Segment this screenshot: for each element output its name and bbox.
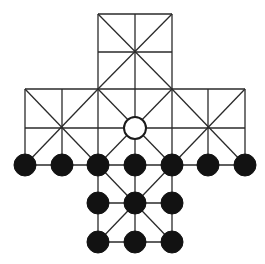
black-piece[interactable]	[87, 192, 109, 214]
game-board	[0, 0, 265, 264]
board-point[interactable]	[237, 81, 253, 97]
board-point[interactable]	[90, 44, 106, 60]
board-point[interactable]	[17, 120, 33, 136]
white-piece[interactable]	[124, 117, 146, 139]
black-piece[interactable]	[161, 231, 183, 253]
black-piece[interactable]	[14, 154, 36, 176]
board-point[interactable]	[90, 81, 106, 97]
black-piece[interactable]	[124, 231, 146, 253]
black-piece[interactable]	[51, 154, 73, 176]
board-point[interactable]	[127, 6, 143, 22]
board-point[interactable]	[127, 81, 143, 97]
board-point[interactable]	[90, 6, 106, 22]
board-point[interactable]	[164, 44, 180, 60]
black-piece[interactable]	[87, 231, 109, 253]
black-piece[interactable]	[161, 192, 183, 214]
black-piece[interactable]	[234, 154, 256, 176]
board-point[interactable]	[164, 81, 180, 97]
black-piece[interactable]	[161, 154, 183, 176]
board-point[interactable]	[127, 44, 143, 60]
board-point[interactable]	[200, 81, 216, 97]
board-point[interactable]	[90, 120, 106, 136]
black-piece[interactable]	[197, 154, 219, 176]
board-point[interactable]	[200, 120, 216, 136]
board-point[interactable]	[17, 81, 33, 97]
board-point[interactable]	[164, 6, 180, 22]
black-piece[interactable]	[124, 154, 146, 176]
black-piece[interactable]	[124, 192, 146, 214]
board-point[interactable]	[164, 120, 180, 136]
board-point[interactable]	[54, 120, 70, 136]
black-piece[interactable]	[87, 154, 109, 176]
board-point[interactable]	[54, 81, 70, 97]
board-point[interactable]	[237, 120, 253, 136]
